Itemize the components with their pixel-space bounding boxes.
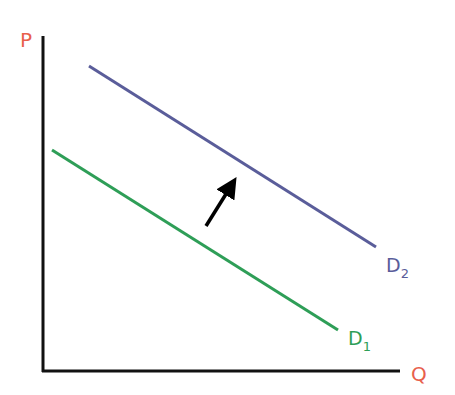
diagram-canvas: P Q D2 D1 xyxy=(0,0,455,395)
d2-label: D2 xyxy=(386,254,409,281)
demand-curve-d1 xyxy=(52,150,338,330)
y-axis-label: P xyxy=(20,28,32,52)
x-axis-label: Q xyxy=(411,362,427,386)
d1-label: D1 xyxy=(348,327,371,354)
demand-shift-diagram: P Q D2 D1 xyxy=(0,0,455,395)
demand-curve-d2 xyxy=(89,66,376,247)
shift-arrow-icon xyxy=(206,186,231,226)
